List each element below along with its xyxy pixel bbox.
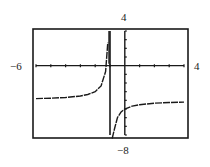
right-branch-curve [112,102,184,138]
left-branch-curve [36,43,108,99]
plot-area [0,0,210,167]
